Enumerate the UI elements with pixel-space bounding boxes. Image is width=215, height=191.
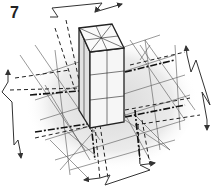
zigzag-dimension-arrow-top xyxy=(50,3,122,17)
zigzag-dimension-arrow-left xyxy=(2,70,21,158)
column-box xyxy=(79,24,124,128)
column-diagram xyxy=(0,0,215,191)
